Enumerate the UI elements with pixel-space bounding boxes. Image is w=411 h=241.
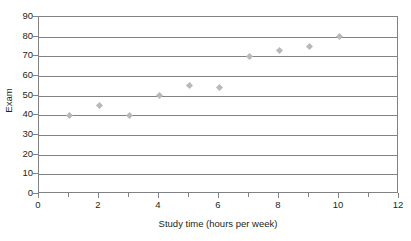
x-axis-title: Study time (hours per week) — [38, 218, 398, 229]
data-point-marker — [155, 92, 162, 99]
data-point-marker — [125, 112, 132, 119]
x-tick-label: 8 — [263, 200, 293, 210]
y-tick-label: 60 — [7, 70, 33, 80]
y-tick-label: 20 — [7, 149, 33, 159]
y-tick-label: 40 — [7, 109, 33, 119]
x-minor-tick-mark — [368, 193, 369, 197]
gridline-horizontal — [39, 174, 397, 175]
x-tick-label: 0 — [23, 200, 53, 210]
data-point-marker — [215, 84, 222, 91]
x-tick-mark — [38, 193, 39, 198]
x-tick-label: 10 — [323, 200, 353, 210]
plot-area — [38, 16, 398, 193]
x-tick-label: 4 — [143, 200, 173, 210]
gridline-horizontal — [39, 155, 397, 156]
y-tick-label: 50 — [7, 90, 33, 100]
cut-off-title-remnant — [0, 0, 411, 3]
x-tick-mark — [158, 193, 159, 198]
gridline-horizontal — [39, 76, 397, 77]
gridline-horizontal — [39, 37, 397, 38]
gridline-horizontal — [39, 96, 397, 97]
x-tick-mark — [98, 193, 99, 198]
x-tick-mark — [338, 193, 339, 198]
data-point-marker — [95, 102, 102, 109]
x-tick-mark — [278, 193, 279, 198]
data-point-marker — [245, 53, 252, 60]
data-point-marker — [305, 43, 312, 50]
x-tick-label: 12 — [383, 200, 411, 210]
y-tick-label: 30 — [7, 129, 33, 139]
x-minor-tick-mark — [188, 193, 189, 197]
x-tick-label: 2 — [83, 200, 113, 210]
y-tick-label: 80 — [7, 31, 33, 41]
x-minor-tick-mark — [68, 193, 69, 197]
x-tick-label: 6 — [203, 200, 233, 210]
y-tick-label: 0 — [7, 188, 33, 198]
data-point-marker — [275, 47, 282, 54]
y-tick-label: 10 — [7, 168, 33, 178]
gridline-horizontal — [39, 115, 397, 116]
x-tick-mark — [218, 193, 219, 198]
y-tick-label: 70 — [7, 50, 33, 60]
data-point-marker — [65, 112, 72, 119]
x-minor-tick-mark — [248, 193, 249, 197]
data-point-marker — [335, 33, 342, 40]
gridline-horizontal — [39, 56, 397, 57]
x-tick-mark — [398, 193, 399, 198]
y-tick-label: 90 — [7, 11, 33, 21]
scatter-chart: Exam 0102030405060708090 024681012 Study… — [0, 0, 411, 241]
x-minor-tick-mark — [308, 193, 309, 197]
data-point-marker — [185, 82, 192, 89]
gridline-horizontal — [39, 135, 397, 136]
x-minor-tick-mark — [128, 193, 129, 197]
